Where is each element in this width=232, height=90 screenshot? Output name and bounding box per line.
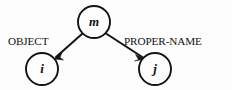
edge-object-line: [56, 34, 83, 58]
edge-label-proper-name: PROPER-NAME: [124, 35, 202, 47]
edge-object: [54, 34, 83, 61]
node-i-label: i: [40, 61, 44, 76]
edge-label-object: OBJECT: [8, 35, 49, 47]
graph-canvas: m i j OBJECT PROPER-NAME: [0, 0, 232, 90]
node-m: m: [78, 6, 110, 38]
node-m-label: m: [89, 14, 99, 29]
semantic-network-diagram: m i j OBJECT PROPER-NAME: [0, 0, 232, 90]
node-j: j: [139, 53, 171, 85]
node-i: i: [26, 53, 58, 85]
